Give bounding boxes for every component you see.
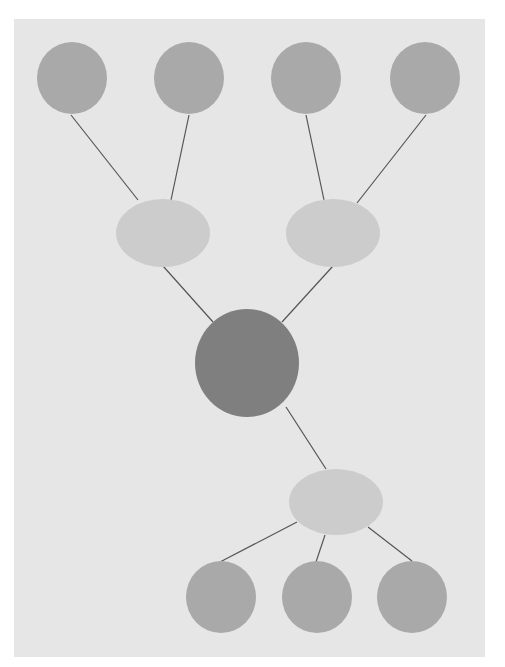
node-lower [289,469,383,535]
edge-6 [286,407,326,469]
node-mid-left [116,199,210,267]
nodes-group [37,42,460,633]
node-top2 [154,42,224,114]
node-top3 [271,42,341,114]
tree-diagram [0,0,505,667]
node-top4 [390,42,460,114]
edge-8 [316,535,325,562]
edge-3 [357,115,426,203]
edge-4 [163,266,213,322]
node-mid-right [286,199,380,267]
node-center [195,309,299,417]
edge-1 [171,115,189,200]
node-bottom2 [282,561,352,633]
node-bottom1 [186,561,256,633]
edge-2 [306,115,324,200]
node-bottom3 [377,561,447,633]
node-top1 [37,42,107,114]
edge-9 [368,527,412,561]
edge-5 [282,266,333,322]
edge-7 [220,522,297,562]
edge-0 [71,115,138,200]
